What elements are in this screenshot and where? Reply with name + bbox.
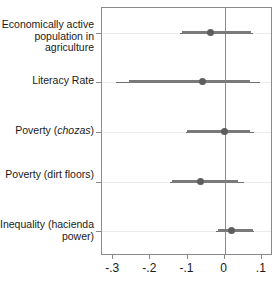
estimate-row-3 bbox=[102, 176, 271, 190]
y-axis-label-4: Inequality (hacienda power) bbox=[0, 219, 94, 242]
confidence-bar bbox=[218, 229, 253, 232]
point-estimate-marker bbox=[207, 29, 214, 36]
point-estimate-marker bbox=[197, 178, 204, 185]
confidence-bar bbox=[129, 80, 250, 83]
x-axis-tick-2 bbox=[187, 255, 188, 259]
x-axis-tick-label-3: 0 bbox=[220, 261, 227, 275]
x-axis-tick-label-1: -.2 bbox=[142, 261, 156, 275]
point-estimate-marker bbox=[221, 128, 228, 135]
x-axis-tick-4 bbox=[261, 255, 262, 259]
x-axis-tick-label-4: .1 bbox=[256, 261, 266, 275]
x-axis-tick-3 bbox=[224, 255, 225, 259]
x-axis-tick-1 bbox=[149, 255, 150, 259]
x-axis-tick-0 bbox=[112, 255, 113, 259]
estimate-row-1 bbox=[102, 76, 271, 90]
x-axis-tick-label-2: -.1 bbox=[179, 261, 193, 275]
x-axis-tick-label-0: -.3 bbox=[105, 261, 119, 275]
point-estimate-marker bbox=[199, 78, 206, 85]
coefficient-plot: Economically active population in agricu… bbox=[0, 0, 278, 285]
point-estimate-marker bbox=[228, 227, 235, 234]
y-axis-label-2: Poverty (chozas) bbox=[0, 125, 94, 137]
estimate-row-4 bbox=[102, 225, 271, 239]
estimate-row-2 bbox=[102, 126, 271, 140]
y-axis-label-0: Economically active population in agricu… bbox=[0, 19, 94, 54]
confidence-bar bbox=[172, 180, 239, 183]
confidence-bar bbox=[182, 31, 251, 34]
confidence-bar bbox=[187, 130, 250, 133]
plot-area bbox=[101, 7, 272, 255]
y-axis-label-1: Literacy Rate bbox=[0, 75, 94, 87]
y-axis-label-3: Poverty (dirt floors) bbox=[0, 169, 94, 181]
estimate-row-0 bbox=[102, 27, 271, 41]
